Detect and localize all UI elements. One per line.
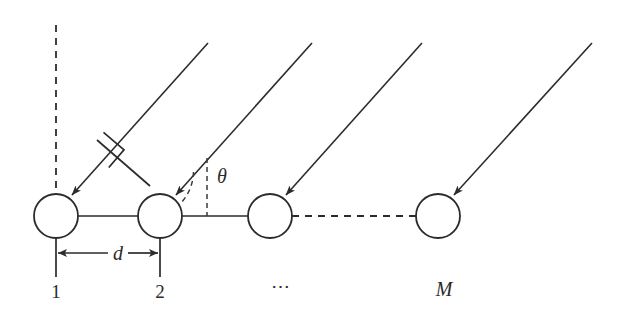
- element-label-1: 1: [51, 281, 61, 302]
- array-element-2[interactable]: [138, 194, 182, 238]
- uniform-linear-array-diagram: d θ 1 2 ⋯ M: [0, 0, 623, 325]
- element-label-2: 2: [155, 281, 165, 302]
- perpendicular-segment: [97, 140, 150, 186]
- array-element-1[interactable]: [34, 194, 78, 238]
- right-angle-icon: [104, 132, 125, 167]
- incident-ray-1: [72, 43, 208, 195]
- array-element-M[interactable]: [416, 194, 460, 238]
- incident-ray-3: [286, 43, 422, 195]
- element-label-M: M: [435, 278, 454, 300]
- incident-ray-2: [176, 43, 312, 195]
- element-label-ellipsis: ⋯: [271, 276, 291, 297]
- angle-label: θ: [217, 165, 227, 187]
- array-element-3[interactable]: [248, 194, 292, 238]
- incident-ray-M: [454, 43, 592, 195]
- spacing-label: d: [113, 242, 124, 264]
- figure-root: d θ 1 2 ⋯ M: [0, 0, 623, 325]
